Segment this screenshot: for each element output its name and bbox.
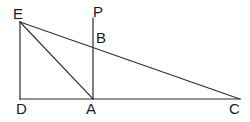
geometry-figure: E P B D A C (0, 0, 250, 122)
vertex-label-d: D (16, 101, 27, 116)
vertex-label-e: E (13, 6, 23, 21)
vertex-label-p: P (93, 4, 103, 19)
vertex-label-b: B (96, 30, 106, 45)
segment-ea (20, 22, 93, 99)
vertex-label-a: A (86, 101, 96, 116)
figure-canvas (0, 0, 250, 122)
vertex-label-c: C (229, 101, 240, 116)
segment-ec (20, 22, 240, 99)
